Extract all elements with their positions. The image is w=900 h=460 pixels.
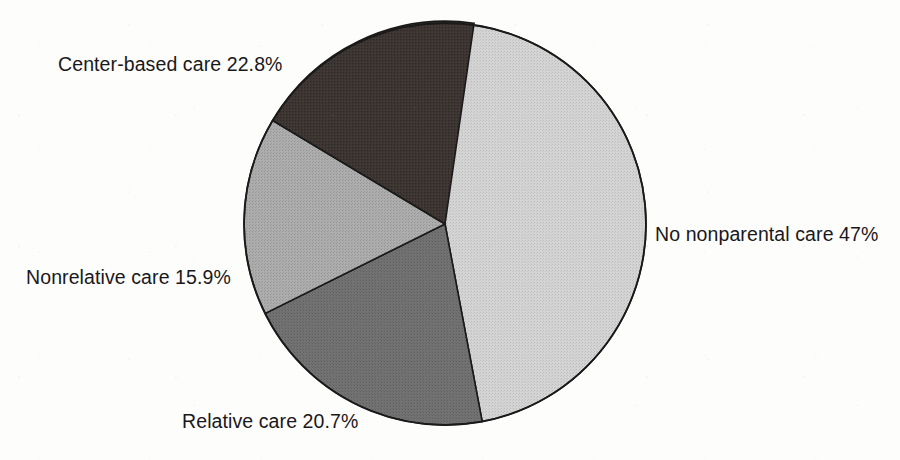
slice-label-center-based-care: Center-based care 22.8%: [58, 52, 283, 76]
pie-slice-no-nonparental-care: [445, 23, 646, 422]
slice-label-no-nonparental-care: No nonparental care 47%: [655, 222, 878, 246]
slice-label-nonrelative-care: Nonrelative care 15.9%: [26, 265, 231, 289]
pie-chart-figure: Center-based care 22.8% No nonparental c…: [0, 0, 900, 460]
slice-label-relative-care: Relative care 20.7%: [182, 409, 358, 433]
